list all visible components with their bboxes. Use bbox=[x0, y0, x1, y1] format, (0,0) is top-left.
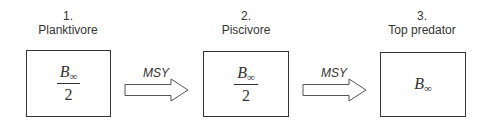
node-1-name: Planktivore bbox=[18, 23, 118, 37]
node-1-fraction: B∞ 2 bbox=[57, 63, 81, 104]
node-1-numerator: B∞ bbox=[57, 63, 81, 84]
node-2-denominator: 2 bbox=[242, 85, 250, 105]
node-3-heading: 3. Top predator bbox=[372, 9, 472, 37]
hollow-right-arrow-icon bbox=[124, 78, 190, 102]
node-1-number: 1. bbox=[18, 9, 118, 23]
node-1-denominator: 2 bbox=[65, 84, 73, 104]
node-3-number: 3. bbox=[372, 9, 472, 23]
node-2-heading: 2. Piscivore bbox=[196, 9, 296, 37]
node-2-box: B∞ 2 bbox=[203, 51, 289, 117]
node-2-name: Piscivore bbox=[196, 23, 296, 37]
node-2-numerator: B∞ bbox=[234, 64, 258, 85]
node-2-fraction: B∞ 2 bbox=[234, 64, 258, 105]
node-3-box: B∞ bbox=[380, 52, 466, 117]
node-2-number: 2. bbox=[196, 9, 296, 23]
node-3-name: Top predator bbox=[372, 23, 472, 37]
node-3-value: B∞ bbox=[414, 75, 432, 94]
node-1-box: B∞ 2 bbox=[26, 50, 111, 117]
node-1-heading: 1. Planktivore bbox=[18, 9, 118, 37]
hollow-right-arrow-icon bbox=[302, 78, 368, 102]
